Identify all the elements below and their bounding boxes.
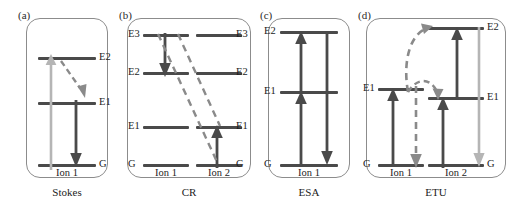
panel-d-ion1-label-G: G bbox=[363, 158, 371, 169]
panel-d-ion1-label: Ion 1 bbox=[378, 167, 424, 178]
panel-d-ion2-label-E1: E1 bbox=[487, 91, 499, 102]
panel-a-arrow-emission bbox=[67, 100, 85, 170]
panel-b-ion1-label-E2: E2 bbox=[128, 66, 140, 77]
energy-level-diagram-figure: (a) E2 E1 G Ion 1 Stokes (b) E3 E2 E1 bbox=[0, 0, 518, 206]
panel-d-arrow-upconversion bbox=[448, 24, 466, 102]
panel-a-caption: Stokes bbox=[26, 186, 108, 198]
panel-a-label-E1: E1 bbox=[99, 96, 111, 107]
panel-d-tag: (d) bbox=[358, 9, 371, 21]
panel-b-ion1-label-E1: E1 bbox=[128, 120, 140, 131]
panel-c-arrow-gsa bbox=[292, 88, 310, 168]
panel-c-arrow-esa bbox=[292, 28, 310, 94]
panel-d-arrow-sensitizer-excitation bbox=[384, 85, 402, 169]
panel-c-ion1-label: Ion 1 bbox=[280, 167, 338, 178]
panel-d-caption: ETU bbox=[366, 186, 506, 198]
panel-c-arrow-emission bbox=[318, 29, 336, 169]
panel-b-ion1-label: Ion 1 bbox=[143, 167, 189, 178]
panel-a-arrow-nonradiative bbox=[58, 58, 92, 102]
panel-b-ion2-label: Ion 2 bbox=[196, 167, 242, 178]
panel-b-ion1-label-E3: E3 bbox=[128, 28, 140, 39]
panel-a-label-E2: E2 bbox=[99, 51, 111, 62]
panel-d-ion2-label-E2: E2 bbox=[487, 21, 499, 32]
panel-c-label-E1: E1 bbox=[264, 85, 276, 96]
panel-b-ion1-label-G: G bbox=[128, 158, 136, 169]
panel-c-caption: ESA bbox=[268, 186, 350, 198]
panel-c-tag: (c) bbox=[260, 9, 272, 21]
panel-d-ion2-label: Ion 2 bbox=[428, 167, 484, 178]
panel-d-arrow-upconverted-emission bbox=[470, 25, 488, 171]
panel-d-arrow-energy-transfer-2 bbox=[400, 22, 446, 96]
panel-a-label-G: G bbox=[99, 158, 107, 169]
panel-a-ion1-label: Ion 1 bbox=[38, 167, 96, 178]
panel-d-arrow-activator-excitation bbox=[434, 94, 452, 170]
panel-c-label-E2: E2 bbox=[264, 25, 276, 36]
panel-b-tag: (b) bbox=[119, 9, 132, 21]
panel-b-arrow-cross-relaxation-2 bbox=[170, 30, 250, 134]
panel-b-caption: CR bbox=[127, 186, 251, 198]
panel-d-ion1-label-E1: E1 bbox=[363, 82, 375, 93]
panel-a-tag: (a) bbox=[18, 9, 30, 21]
panel-c-label-G: G bbox=[264, 158, 272, 169]
panel-d-ion2-label-G: G bbox=[487, 158, 495, 169]
